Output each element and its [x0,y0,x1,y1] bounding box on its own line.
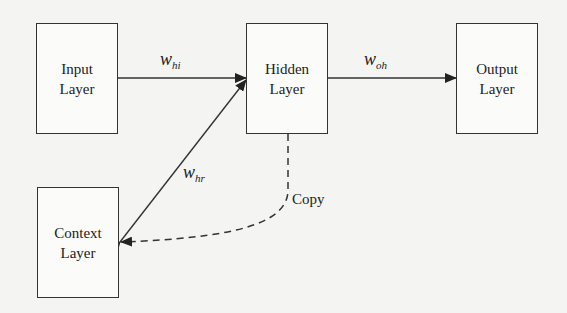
input-layer-node: Input Layer [36,23,118,134]
context-layer-label-1: Context [54,223,102,243]
hidden-layer-label-1: Hidden [265,59,309,79]
weight-label-woh: woh [364,49,387,71]
output-layer-label-1: Output [476,59,518,79]
output-layer-node: Output Layer [456,23,538,134]
copy-label: Copy [292,191,325,208]
edge-context-hidden [120,80,246,242]
context-layer-label-2: Layer [61,243,96,263]
hidden-layer-label-2: Layer [270,79,305,99]
weight-base: w [183,162,195,182]
weight-subscript: hi [172,59,181,71]
context-layer-node: Context Layer [37,187,119,298]
weight-base: w [364,49,376,69]
input-layer-label-2: Layer [60,79,95,99]
weight-subscript: oh [376,59,387,71]
hidden-layer-node: Hidden Layer [246,23,328,134]
weight-subscript: hr [195,172,205,184]
weight-label-whr: whr [183,162,205,184]
output-layer-label-2: Layer [480,79,515,99]
input-layer-label-1: Input [61,59,93,79]
edge-copy-dashed [121,134,288,242]
weight-base: w [160,49,172,69]
weight-label-whi: whi [160,49,181,71]
